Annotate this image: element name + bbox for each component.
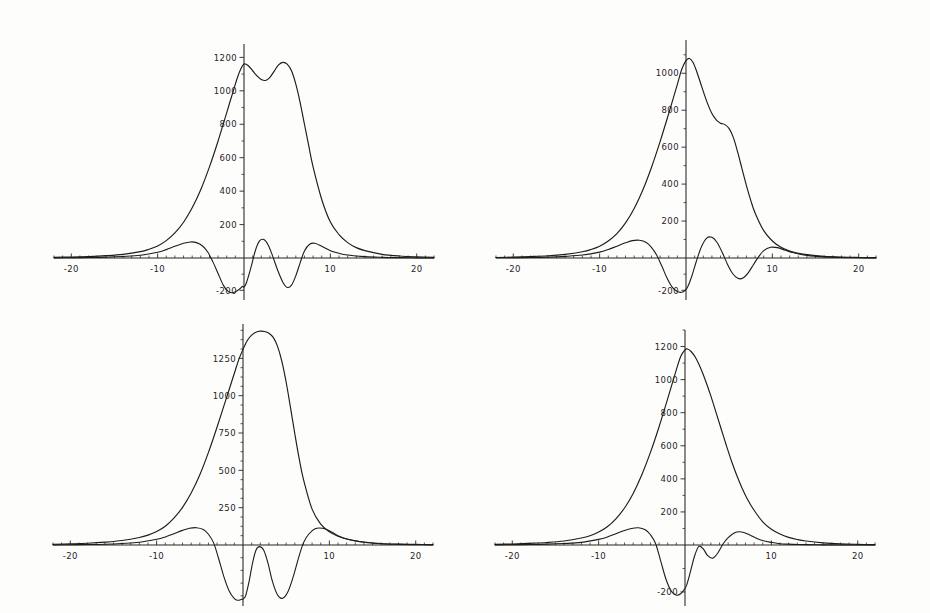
plot-svg-bottom-right: 20040060080010001200-200-20-101020 xyxy=(465,306,930,613)
x-tick-label: 20 xyxy=(852,551,864,561)
y-tick-label: 400 xyxy=(220,186,237,196)
plot-panel-bottom-right: 20040060080010001200-200-20-101020 xyxy=(465,306,930,613)
y-tick-label: 200 xyxy=(661,507,678,517)
y-tick-label: 1200 xyxy=(214,53,237,63)
plot-svg-top-right: 2004006008001000-200-20-101020 xyxy=(465,0,930,306)
x-tick-label: 20 xyxy=(853,264,865,274)
y-tick-label: 800 xyxy=(220,119,237,129)
x-tick-label: -10 xyxy=(150,264,165,274)
y-tick-label: 400 xyxy=(661,474,678,484)
y-tick-label: -200 xyxy=(657,587,678,597)
y-tick-label: -200 xyxy=(216,286,237,296)
y-tick-label: 1000 xyxy=(655,375,678,385)
x-tick-label: 20 xyxy=(410,551,422,561)
plot-svg-top-left: 20040060080010001200-200-20-101020 xyxy=(0,0,465,306)
y-tick-label: 750 xyxy=(219,428,236,438)
y-tick-label: 400 xyxy=(662,179,679,189)
y-tick-label: 250 xyxy=(219,503,236,513)
y-tick-label: 600 xyxy=(661,441,678,451)
y-tick-label: 1000 xyxy=(213,391,236,401)
y-tick-label: 1200 xyxy=(655,342,678,352)
x-tick-label: -20 xyxy=(505,551,520,561)
plot-panel-top-left: 20040060080010001200-200-20-101020 xyxy=(0,0,465,306)
y-tick-label: 1000 xyxy=(214,86,237,96)
x-tick-label: -10 xyxy=(592,264,607,274)
x-tick-label: 10 xyxy=(325,264,337,274)
x-tick-label: 10 xyxy=(766,551,778,561)
y-tick-label: 800 xyxy=(661,408,678,418)
plot-svg-bottom-left: 25050075010001250-20-101020 xyxy=(0,306,465,613)
y-tick-label: 200 xyxy=(220,220,237,230)
y-tick-label: 800 xyxy=(662,105,679,115)
x-tick-label: -10 xyxy=(591,551,606,561)
y-tick-label: 600 xyxy=(662,142,679,152)
plot-panel-bottom-left: 25050075010001250-20-101020 xyxy=(0,306,465,613)
x-tick-label: 10 xyxy=(767,264,779,274)
plot-panel-top-right: 2004006008001000-200-20-101020 xyxy=(465,0,930,306)
x-tick-label: 10 xyxy=(324,551,336,561)
x-tick-label: -20 xyxy=(506,264,521,274)
x-tick-label: -10 xyxy=(149,551,164,561)
x-tick-label: 20 xyxy=(411,264,423,274)
x-tick-label: -20 xyxy=(63,551,78,561)
y-tick-label: -200 xyxy=(658,286,679,296)
y-tick-label: 1000 xyxy=(656,68,679,78)
y-tick-label: 1250 xyxy=(213,354,236,364)
y-tick-label: 200 xyxy=(662,216,679,226)
figure-canvas: 20040060080010001200-200-20-101020 20040… xyxy=(0,0,930,613)
y-tick-label: 500 xyxy=(219,466,236,476)
y-tick-label: 600 xyxy=(220,153,237,163)
x-tick-label: -20 xyxy=(64,264,79,274)
